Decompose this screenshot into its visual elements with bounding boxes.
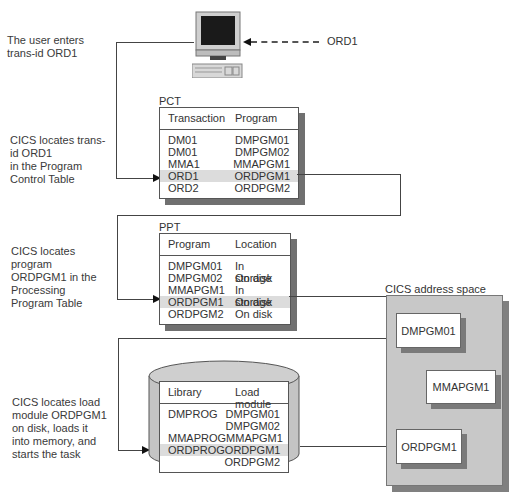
- connector-line: [289, 296, 400, 297]
- step-4-line: module ORDPGM1: [12, 409, 107, 422]
- step-4-line: into memory, and: [12, 435, 107, 448]
- connector-line: [118, 338, 119, 450]
- connector-line: [117, 215, 401, 216]
- library-row: ORDPGM2: [160, 456, 288, 468]
- step-3-line: Program Table: [11, 297, 97, 310]
- pct-cell: ORD2: [168, 182, 234, 194]
- step-4-line: on disk, loads it: [12, 422, 107, 435]
- ppt-cell: ORDPGM1: [168, 296, 235, 308]
- step-3-line: Processing: [11, 284, 97, 297]
- ppt-cell: In storage: [235, 260, 282, 272]
- ppt-row-highlighted: ORDPGM1On disk: [160, 296, 290, 308]
- connector-line: [297, 174, 401, 175]
- input-arrowhead-icon: [243, 38, 251, 46]
- library-header-library: Library: [168, 386, 235, 400]
- pct-cell: DM01: [168, 146, 235, 158]
- address-space-title: CICS address space: [385, 283, 486, 295]
- ppt-cell: ORDPGM2: [168, 308, 235, 320]
- connector-line: [118, 338, 400, 339]
- ppt-row: MMAPGM1In storage: [160, 284, 290, 296]
- library-cell: DMPGM02: [226, 420, 280, 432]
- ppt-row: ORDPGM2On disk: [160, 308, 290, 320]
- address-space-program-dmpgm01: DMPGM01: [396, 313, 461, 348]
- terminal-input-label: ORD1: [327, 35, 358, 47]
- step-3-line: CICS locates: [11, 245, 97, 258]
- ppt-header: Program Location: [160, 234, 290, 256]
- library-row: DMPROGDMPGM01: [160, 408, 288, 420]
- ppt-cell: In storage: [235, 284, 282, 296]
- step-1-line: The user enters: [7, 34, 84, 47]
- pct-cell: MMA1: [168, 158, 233, 170]
- library-row-highlighted: ORDPROGORDPGM1: [160, 444, 288, 456]
- connector-line: [118, 450, 143, 451]
- library-cell: MMAPGM1: [226, 432, 283, 444]
- library-cell: ORDPROG: [168, 444, 225, 456]
- step-1-text: The user enters trans-id ORD1: [7, 34, 84, 60]
- library-cell: [168, 420, 226, 432]
- pct-table: Transaction Program DM01DMPGM01 DM01DMPG…: [159, 107, 299, 199]
- pct-row: DM01DMPGM02: [160, 146, 298, 158]
- pct-row: DM01DMPGM01: [160, 134, 298, 146]
- address-space-program-ordpgm1: ORDPGM1: [396, 429, 462, 464]
- step-3-line: program: [11, 258, 97, 271]
- library-cell: MMAPROG: [168, 432, 226, 444]
- library-header: Library Load module: [160, 382, 288, 404]
- step-2-line: CICS locates trans-: [10, 134, 105, 147]
- library-cell: DMPGM01: [226, 408, 280, 420]
- pct-row: MMA1MMAPGM1: [160, 158, 298, 170]
- ppt-header-location: Location: [235, 238, 282, 252]
- pct-header-transaction: Transaction: [168, 112, 235, 126]
- ppt-header-program: Program: [168, 238, 235, 252]
- ppt-cell: On disk: [235, 296, 282, 308]
- ppt-cell: DMPGM02: [168, 272, 235, 284]
- step-2-line: id ORD1: [10, 147, 105, 160]
- ppt-title: PPT: [159, 221, 180, 233]
- library-cell: [168, 456, 224, 468]
- pct-header-program: Program: [235, 112, 290, 126]
- ppt-row: DMPGM02On disk: [160, 272, 290, 284]
- connector-line: [400, 174, 401, 216]
- library-cell: DMPROG: [168, 408, 226, 420]
- step-2-line: in the Program: [10, 160, 105, 173]
- pct-row-highlighted: ORD1ORDPGM1: [160, 170, 298, 182]
- step-4-line: starts the task: [12, 448, 107, 461]
- ppt-cell: On disk: [235, 272, 282, 284]
- pct-cell: DMPGM02: [235, 146, 290, 158]
- ppt-cell: MMAPGM1: [168, 284, 235, 296]
- connector-line: [117, 215, 118, 299]
- pct-cell: DMPGM01: [235, 134, 290, 146]
- step-2-line: Control Table: [10, 173, 105, 186]
- pct-cell: ORDPGM1: [234, 170, 290, 182]
- pct-title: PCT: [159, 95, 181, 107]
- step-2-text: CICS locates trans- id ORD1 in the Progr…: [10, 134, 105, 186]
- address-space-program-mmapgm1: MMAPGM1: [426, 370, 496, 404]
- pct-header: Transaction Program: [160, 108, 298, 130]
- connector-line: [116, 42, 194, 43]
- step-1-line: trans-id ORD1: [7, 47, 84, 60]
- step-4-text: CICS locates load module ORDPGM1 on disk…: [12, 396, 107, 461]
- library-table: Library Load module DMPROGDMPGM01 DMPGM0…: [159, 381, 289, 473]
- library-row: MMAPROGMMAPGM1: [160, 432, 288, 444]
- pct-row: ORD2ORDPGM2: [160, 182, 298, 194]
- step-4-line: CICS locates load: [12, 396, 107, 409]
- library-cell: ORDPGM1: [225, 444, 281, 456]
- library-header-load-module: Load module: [235, 386, 280, 400]
- step-3-text: CICS locates program ORDPGM1 in the Proc…: [11, 245, 97, 310]
- pct-cell: ORD1: [168, 170, 234, 182]
- connector-line: [117, 299, 154, 300]
- pct-cell: DM01: [168, 134, 235, 146]
- connector-line: [116, 42, 117, 178]
- input-dashed-line: [251, 41, 319, 43]
- ppt-cell: DMPGM01: [168, 260, 235, 272]
- pct-cell: ORDPGM2: [234, 182, 290, 194]
- step-3-line: ORDPGM1 in the: [11, 271, 97, 284]
- ppt-cell: On disk: [235, 308, 282, 320]
- connector-line: [300, 446, 391, 447]
- pct-cell: MMAPGM1: [233, 158, 290, 170]
- connector-line: [116, 178, 154, 179]
- library-row: DMPGM02: [160, 420, 288, 432]
- library-cell: ORDPGM2: [224, 456, 280, 468]
- ppt-row: DMPGM01In storage: [160, 260, 290, 272]
- ppt-table: Program Location DMPGM01In storage DMPGM…: [159, 233, 291, 325]
